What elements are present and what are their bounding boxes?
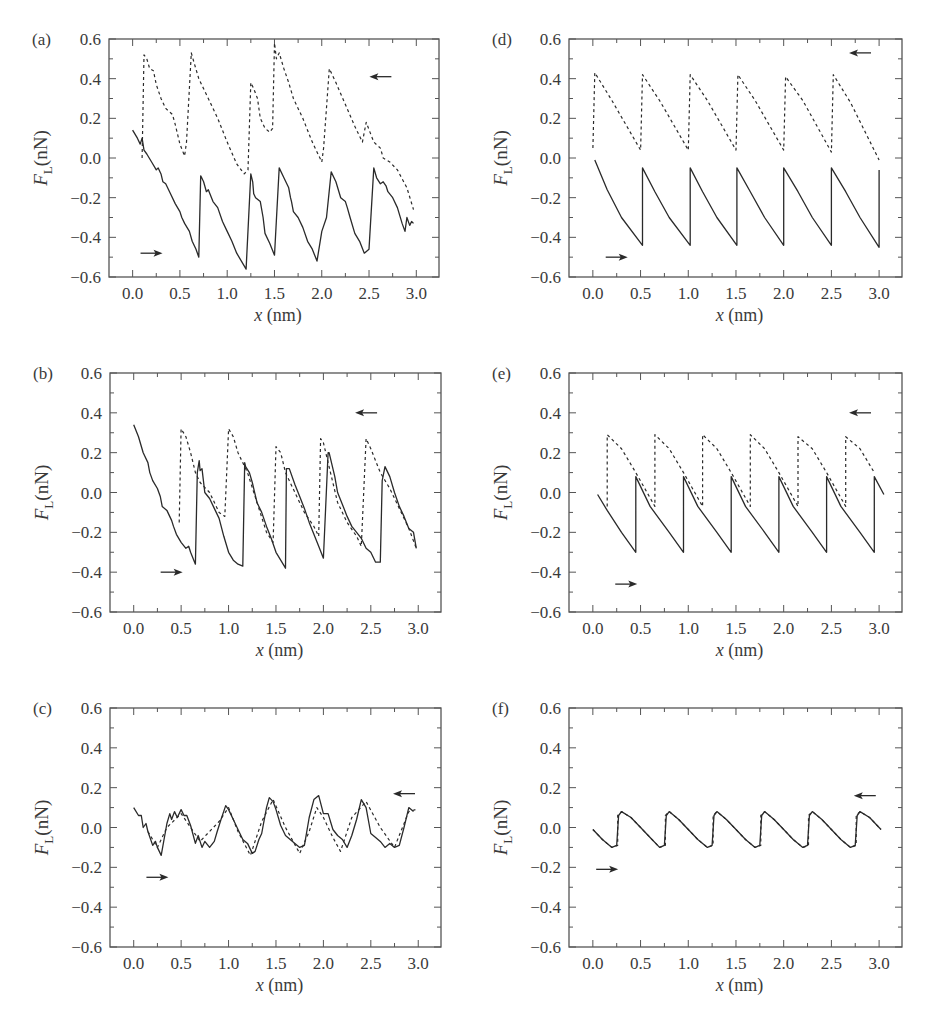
y-axis-symbol: F [30, 174, 51, 187]
x-axis-unit: (nm) [264, 975, 304, 996]
arrow-left-icon [369, 73, 391, 80]
y-axis-label: FL(nN) [31, 800, 56, 856]
x-tick-label: 2.5 [360, 954, 381, 973]
forward-trace-line [593, 812, 881, 848]
x-axis-unit: (nm) [724, 305, 764, 326]
y-tick-label: 0.4 [80, 70, 102, 89]
x-tick-label: 0.0 [123, 954, 144, 973]
panel-label: (f) [492, 699, 509, 718]
y-tick-label: 0.2 [81, 444, 102, 463]
x-tick-label: 0.5 [630, 619, 651, 638]
panel-label: (d) [492, 30, 512, 49]
y-tick-label: −0.4 [530, 898, 561, 917]
chart-panel-e: 0.00.51.01.52.02.53.0−0.6−0.4−0.20.00.20… [490, 364, 902, 661]
arrow-left-icon [849, 49, 871, 56]
tick-marks [569, 39, 902, 277]
x-tick-label: 2.0 [311, 284, 332, 303]
y-tick-label: 0.0 [540, 149, 561, 168]
x-tick-label: 2.5 [821, 619, 842, 638]
backward-trace-line [593, 73, 879, 160]
y-tick-label: −0.6 [530, 603, 561, 622]
y-tick-label: 0.0 [81, 484, 102, 503]
y-tick-label: −0.4 [70, 228, 101, 247]
backward-trace-line [593, 812, 881, 848]
chart-panel-f: 0.00.51.01.52.02.53.0−0.6−0.4−0.20.00.20… [490, 699, 902, 996]
x-tick-label: 1.0 [678, 619, 699, 638]
x-tick-label: 1.0 [678, 954, 699, 973]
arrow-left-icon [854, 792, 876, 799]
x-axis-unit: (nm) [724, 975, 764, 996]
x-tick-label: 2.5 [358, 284, 379, 303]
y-tick-label: −0.4 [530, 563, 561, 582]
arrow-right-icon [146, 874, 168, 881]
y-tick-label: 0.6 [540, 699, 561, 718]
x-tick-label: 1.5 [265, 954, 286, 973]
y-tick-label: 0.2 [80, 109, 101, 128]
tick-marks [110, 708, 441, 947]
y-axis-unit: (nN) [490, 130, 512, 166]
x-axis-symbol: x [715, 305, 724, 325]
y-tick-label: −0.6 [71, 938, 102, 957]
x-tick-label: 3.0 [868, 619, 889, 638]
plot-frame [569, 39, 902, 277]
x-tick-label: 1.5 [725, 619, 746, 638]
x-tick-label: 2.0 [773, 284, 794, 303]
y-tick-label: 0.4 [540, 739, 562, 758]
plot-frame [569, 708, 902, 947]
y-axis-label: FL(nN) [490, 130, 515, 186]
tick-marks [569, 708, 902, 947]
y-tick-label: −0.2 [530, 189, 561, 208]
y-axis-unit: (nN) [31, 465, 53, 501]
x-tick-label: 1.5 [264, 284, 285, 303]
y-tick-label: −0.4 [71, 898, 102, 917]
y-tick-label: −0.4 [71, 563, 102, 582]
y-tick-label: 0.0 [81, 819, 102, 838]
x-axis-unit: (nm) [262, 305, 302, 326]
x-tick-label: 3.0 [406, 284, 427, 303]
y-tick-label: 0.0 [80, 149, 101, 168]
y-axis-label: FL(nN) [490, 800, 515, 856]
y-tick-label: −0.2 [71, 858, 102, 877]
figure-canvas: 0.00.51.01.52.02.53.0−0.6−0.4−0.20.00.20… [0, 0, 927, 1029]
x-axis-symbol: x [715, 640, 724, 660]
plot-frame [110, 708, 441, 947]
y-axis-subscript: L [40, 166, 55, 174]
chart-panel-a: 0.00.51.01.52.02.53.0−0.6−0.4−0.20.00.20… [30, 30, 439, 326]
x-axis-label: x (nm) [255, 640, 304, 661]
y-tick-label: −0.2 [530, 858, 561, 877]
x-tick-label: 1.0 [217, 284, 238, 303]
y-tick-label: 0.6 [81, 699, 102, 718]
y-tick-label: 0.2 [540, 109, 561, 128]
x-axis-symbol: x [255, 640, 264, 660]
y-axis-subscript: L [41, 836, 56, 844]
y-axis-symbol: F [31, 508, 52, 521]
chart-panel-b: 0.00.51.01.52.02.53.0−0.6−0.4−0.20.00.20… [31, 364, 441, 661]
y-tick-label: 0.4 [540, 404, 562, 423]
y-axis-symbol: F [490, 508, 511, 521]
x-tick-label: 0.5 [630, 954, 651, 973]
y-axis-unit: (nN) [490, 465, 512, 501]
y-tick-label: 0.0 [540, 819, 561, 838]
y-tick-label: 0.4 [81, 739, 103, 758]
y-axis-symbol: F [31, 843, 52, 856]
x-tick-label: 2.5 [360, 619, 381, 638]
y-axis-unit: (nN) [490, 800, 512, 836]
panel-label: (e) [492, 364, 511, 383]
x-tick-label: 2.0 [773, 954, 794, 973]
x-tick-label: 2.5 [821, 284, 842, 303]
x-tick-label: 0.0 [123, 619, 144, 638]
y-axis-symbol: F [490, 843, 511, 856]
tick-marks [569, 373, 902, 612]
x-axis-unit: (nm) [264, 640, 304, 661]
y-axis-subscript: L [500, 501, 515, 509]
forward-trace-line [598, 477, 884, 553]
y-tick-label: −0.6 [530, 268, 561, 287]
x-axis-symbol: x [715, 975, 724, 995]
y-axis-subscript: L [500, 836, 515, 844]
y-tick-label: −0.6 [70, 268, 101, 287]
y-tick-label: 0.2 [81, 779, 102, 798]
x-tick-label: 1.0 [218, 619, 239, 638]
arrow-right-icon [596, 866, 618, 873]
y-tick-label: −0.6 [71, 603, 102, 622]
chart-panel-d: 0.00.51.01.52.02.53.0−0.6−0.4−0.20.00.20… [490, 30, 902, 326]
